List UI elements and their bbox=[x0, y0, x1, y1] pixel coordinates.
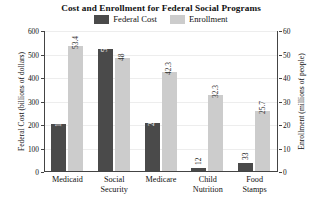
legend-label-enrollment: Enrollment bbox=[189, 15, 228, 24]
y-axis-tick bbox=[41, 78, 44, 79]
bar-group: 1232.3 bbox=[185, 32, 232, 171]
x-axis-category-label: Social Security bbox=[91, 175, 138, 194]
bar-value-label: 12 bbox=[195, 158, 202, 165]
legend-swatch-federal-cost bbox=[94, 15, 109, 24]
y-axis-tick bbox=[41, 125, 44, 126]
y2-axis-tick bbox=[279, 55, 282, 56]
chart-title: Cost and Enrollment for Federal Social P… bbox=[0, 3, 322, 13]
y2-axis-tick bbox=[279, 78, 282, 79]
bar-federal-cost[interactable]: 33 bbox=[238, 163, 253, 171]
x-axis-category-label: Child Nutrition bbox=[184, 175, 231, 194]
x-axis-category-label: Medicaid bbox=[44, 175, 91, 185]
bar-value-label: 42.3 bbox=[165, 62, 172, 75]
y-axis-tick-label: 0 bbox=[35, 169, 39, 176]
bar-group: 51948 bbox=[92, 32, 139, 171]
y-axis-tick-label: 500 bbox=[28, 52, 39, 59]
bar-group: 3325.7 bbox=[232, 32, 279, 171]
bar-value-label: 33 bbox=[242, 153, 249, 160]
bar-value-label: 32.3 bbox=[212, 85, 219, 98]
bar-group: 19853.4 bbox=[45, 32, 92, 171]
y2-axis-tick-label: 60 bbox=[283, 28, 290, 35]
plot-area: 0010010200203003040040500506006019853.45… bbox=[44, 31, 278, 172]
y2-axis-tick-label: 50 bbox=[283, 52, 290, 59]
bar-value-label: 198 bbox=[55, 116, 62, 127]
y-axis-tick-label: 600 bbox=[28, 28, 39, 35]
chart-container: Cost and Enrollment for Federal Social P… bbox=[0, 0, 322, 206]
bar-federal-cost[interactable]: 12 bbox=[191, 168, 206, 171]
y-axis-title: Federal Cost (billions of dollars) bbox=[17, 32, 26, 172]
y2-axis-tick bbox=[279, 172, 282, 173]
legend-item-federal-cost: Federal Cost bbox=[94, 15, 157, 24]
y-axis-tick bbox=[41, 172, 44, 173]
y2-axis-tick bbox=[279, 31, 282, 32]
bar-enrollment[interactable]: 48 bbox=[115, 58, 130, 171]
y2-axis-title: Enrollment (millions of people) bbox=[297, 32, 306, 172]
y-axis-tick-label: 300 bbox=[28, 99, 39, 106]
bar-group: 20442.3 bbox=[139, 32, 186, 171]
y-axis-tick-label: 100 bbox=[28, 146, 39, 153]
y-axis-tick bbox=[41, 149, 44, 150]
y2-axis-tick-label: 10 bbox=[283, 146, 290, 153]
bar-enrollment[interactable]: 32.3 bbox=[208, 95, 223, 171]
y-axis-tick-label: 200 bbox=[28, 122, 39, 129]
bar-enrollment[interactable]: 53.4 bbox=[68, 46, 83, 171]
y-axis-tick bbox=[41, 102, 44, 103]
legend-item-enrollment: Enrollment bbox=[170, 15, 228, 24]
y2-axis-tick bbox=[279, 102, 282, 103]
y2-axis-tick bbox=[279, 149, 282, 150]
y2-axis-tick-label: 0 bbox=[283, 169, 287, 176]
bar-enrollment[interactable]: 25.7 bbox=[255, 111, 270, 171]
legend-swatch-enrollment bbox=[170, 15, 185, 24]
bar-federal-cost[interactable]: 204 bbox=[145, 123, 160, 171]
bar-enrollment[interactable]: 42.3 bbox=[162, 72, 177, 171]
bar-federal-cost[interactable]: 519 bbox=[98, 49, 113, 171]
bar-value-label: 48 bbox=[119, 54, 126, 61]
bar-federal-cost[interactable]: 198 bbox=[51, 124, 66, 171]
legend-label-federal-cost: Federal Cost bbox=[113, 15, 157, 24]
y-axis-tick bbox=[41, 55, 44, 56]
y2-axis-tick-label: 40 bbox=[283, 75, 290, 82]
bar-value-label: 204 bbox=[148, 115, 155, 126]
y2-axis-tick-label: 20 bbox=[283, 122, 290, 129]
bar-value-label: 53.4 bbox=[72, 36, 79, 49]
y2-axis-tick-label: 30 bbox=[283, 99, 290, 106]
bar-value-label: 519 bbox=[102, 41, 109, 52]
x-axis-category-label: Food Stamps bbox=[231, 175, 278, 194]
y-axis-tick-label: 400 bbox=[28, 75, 39, 82]
x-axis-category-label: Medicare bbox=[138, 175, 185, 185]
chart-legend: Federal Cost Enrollment bbox=[0, 15, 322, 24]
y-axis-tick bbox=[41, 31, 44, 32]
y2-axis-tick bbox=[279, 125, 282, 126]
bar-value-label: 25.7 bbox=[259, 101, 266, 114]
